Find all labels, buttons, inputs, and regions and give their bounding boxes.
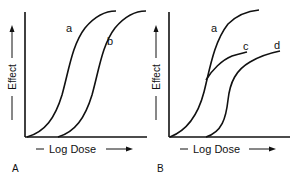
x-axis-label: Log Dose <box>36 143 133 155</box>
curve-label-a: a <box>211 22 218 34</box>
curve-label-d: d <box>274 39 280 51</box>
panel-label-a: A <box>12 163 19 174</box>
svg-text:Log Dose: Log Dose <box>49 143 96 155</box>
arrow-right-icon <box>126 147 133 152</box>
panel-b: a c d Effect Log Dose B <box>151 10 290 174</box>
arrow-right-icon <box>269 147 276 152</box>
svg-text:Effect: Effect <box>151 64 162 90</box>
svg-text:Log Dose: Log Dose <box>193 143 240 155</box>
svg-text:Effect: Effect <box>7 64 18 90</box>
curve-d <box>206 51 280 137</box>
curve-label-c: c <box>243 40 249 52</box>
y-axis-label: Effect <box>7 25 18 120</box>
y-axis-label: Effect <box>151 25 162 120</box>
dose-response-figure: a b Effect Log Dose A a c d <box>0 0 296 184</box>
panel-label-b: B <box>157 163 164 174</box>
panel-a: a b Effect Log Dose A <box>7 11 147 174</box>
curve-label-b: b <box>107 35 113 47</box>
arrow-up-icon <box>154 25 159 32</box>
arrow-up-icon <box>10 25 15 32</box>
curve-label-a: a <box>66 22 73 34</box>
x-axis-label: Log Dose <box>180 143 276 155</box>
